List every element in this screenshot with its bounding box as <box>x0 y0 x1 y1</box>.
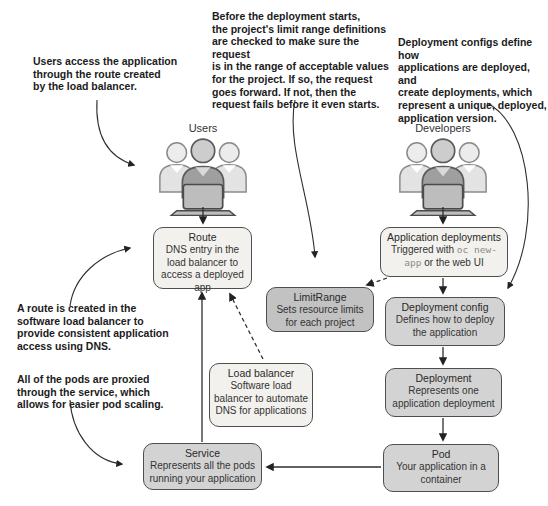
pod-box-title: Pod <box>388 448 494 460</box>
note-before-deployment: Before the deployment starts, the projec… <box>212 10 392 111</box>
pod-box: Pod Your application in a container <box>383 444 499 492</box>
limitrange-box-body: Sets resource limits for each project <box>271 304 369 329</box>
diagram-canvas: Users access the application through the… <box>0 0 548 506</box>
dashed-arrow-load-balancer-to-route <box>230 294 263 359</box>
pointer-route-created-note <box>70 248 130 306</box>
route-box-title: Route <box>158 231 247 243</box>
deployment-box-title: Deployment <box>390 372 497 384</box>
dashed-arrow-app-deployments-to-limitrange <box>367 278 387 285</box>
deployment-config-box-title: Deployment config <box>390 301 500 313</box>
limitrange-box-title: LimitRange <box>271 291 369 303</box>
users-group-icon <box>158 137 248 217</box>
deployment-box-body: Represents one application deployment <box>390 385 497 410</box>
load-balancer-box: Load balancer Software load balancer to … <box>209 363 313 427</box>
deployment-config-box: Deployment config Defines how to deploy … <box>385 297 505 346</box>
app-deployments-body-suffix: or the web UI <box>421 257 483 268</box>
service-box-body: Represents all the pods running your app… <box>148 460 257 485</box>
pod-box-body: Your application in a container <box>388 461 494 486</box>
developers-group-icon <box>398 137 488 217</box>
route-box: Route DNS entry in the load balancer to … <box>153 227 252 289</box>
app-deployments-body-prefix: Triggered with <box>391 244 457 255</box>
service-box: Service Represents all the pods running … <box>143 443 262 490</box>
developers-label: Developers <box>403 122 483 134</box>
deployment-box: Deployment Represents one application de… <box>385 368 502 417</box>
app-deployments-box-title: Application deployments <box>385 231 503 243</box>
load-balancer-box-body: Software load balancer to automate DNS f… <box>214 380 308 418</box>
app-deployments-box-body: Triggered with oc new-app or the web UI <box>385 244 503 269</box>
pointer-before-deployment-note <box>293 100 315 257</box>
pointer-users-access-note <box>97 100 134 165</box>
note-users-access: Users access the application through the… <box>33 55 198 93</box>
app-deployments-box: Application deployments Triggered with o… <box>380 227 508 277</box>
load-balancer-box-title: Load balancer <box>214 367 308 379</box>
deployment-config-box-body: Defines how to deploy the application <box>390 314 500 339</box>
note-pods-proxied: All of the pods are proxied through the … <box>17 373 187 411</box>
users-label: Users <box>163 122 243 134</box>
service-box-title: Service <box>148 447 257 459</box>
note-route-created: A route is created in the software load … <box>17 302 187 352</box>
route-box-body: DNS entry in the load balancer to access… <box>158 244 247 294</box>
note-deployment-configs: Deployment configs define how applicatio… <box>398 36 548 124</box>
limitrange-box: LimitRange Sets resource limits for each… <box>266 287 374 332</box>
